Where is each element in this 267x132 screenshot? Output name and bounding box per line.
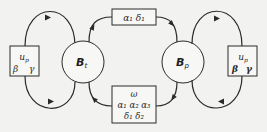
left-box-gamma: γ xyxy=(29,64,35,74)
right-box-u-sub: p xyxy=(244,56,248,64)
node-bp-sub: p xyxy=(183,62,189,70)
right-box: up β γ xyxy=(228,46,257,76)
arrow-left-lower-icon xyxy=(48,99,54,105)
edge-right-upper xyxy=(192,11,242,46)
top-box: α₁ δ₁ xyxy=(112,9,156,25)
top-box-text: α₁ δ₁ xyxy=(123,13,145,23)
left-box-beta: β xyxy=(12,64,18,74)
right-box-beta: β xyxy=(231,64,238,74)
edge-bp-to-bottom xyxy=(156,82,177,106)
edge-bottom-to-bt xyxy=(89,82,112,106)
flow-diagram: up β γ Bt α₁ δ₁ ω α₁ α₂ α₃ δ₁ δ₂ Bp xyxy=(0,0,267,132)
bottom-box-alphas: α₁ α₂ α₃ xyxy=(118,100,151,110)
node-bp: Bp xyxy=(162,41,204,83)
arrow-right-lower-icon xyxy=(218,99,224,105)
left-box: up β γ xyxy=(10,46,39,76)
left-box-u-sub: p xyxy=(25,56,29,64)
edge-top-to-bp xyxy=(156,17,177,42)
edge-right-lower xyxy=(192,76,242,108)
edge-left-upper xyxy=(25,12,75,47)
bottom-box-omega: ω xyxy=(131,89,138,99)
bottom-box: ω α₁ α₂ α₃ δ₁ δ₂ xyxy=(112,86,156,123)
node-bt-sub: t xyxy=(84,62,87,70)
arrow-right-upper-icon xyxy=(214,16,220,22)
node-bp-label: B xyxy=(176,56,184,69)
node-bt-label: B xyxy=(76,56,84,69)
arrow-left-upper-icon xyxy=(45,15,51,21)
bottom-box-deltas: δ₁ δ₂ xyxy=(124,111,144,121)
node-bt: Bt xyxy=(62,41,104,83)
right-box-gamma: γ xyxy=(246,64,253,74)
